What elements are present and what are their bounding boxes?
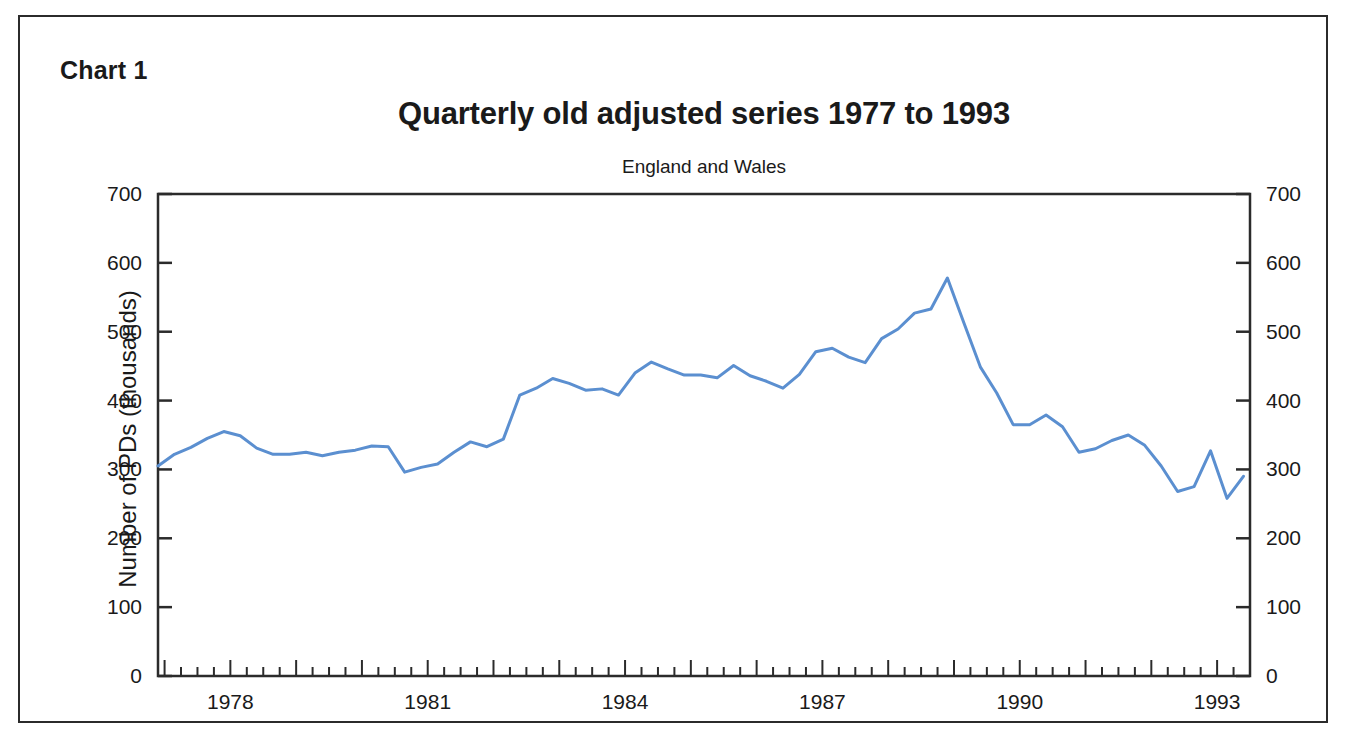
y-axis-tick-label: 400 (107, 389, 142, 412)
data-series-line (158, 278, 1243, 498)
x-axis-tick-label: 1978 (207, 690, 254, 713)
y-axis-tick-label: 300 (107, 457, 142, 480)
y-axis-tick-label-right: 600 (1266, 251, 1301, 274)
plot-area-frame (158, 194, 1250, 676)
y-axis-tick-label-right: 0 (1266, 664, 1278, 687)
y-axis-tick-label: 700 (107, 182, 142, 205)
y-axis-tick-label: 0 (130, 664, 142, 687)
y-axis-tick-label-right: 300 (1266, 457, 1301, 480)
chart-figure: Chart 1 Quarterly old adjusted series 19… (0, 0, 1349, 752)
y-axis-right-ticks: 7006005004003002001000 (1236, 182, 1301, 687)
y-axis-left-ticks: 7006005004003002001000 (107, 182, 172, 687)
y-axis-tick-label-right: 200 (1266, 526, 1301, 549)
x-axis-tick-label: 1984 (602, 690, 649, 713)
x-axis-tick-label: 1981 (404, 690, 451, 713)
x-axis-tick-label: 1993 (1194, 690, 1241, 713)
y-axis-tick-label: 100 (107, 595, 142, 618)
x-axis-ticks: 197819811984198719901993 (165, 660, 1250, 713)
y-axis-tick-label-right: 100 (1266, 595, 1301, 618)
x-axis-tick-label: 1987 (799, 690, 846, 713)
y-axis-tick-label: 600 (107, 251, 142, 274)
y-axis-tick-label: 200 (107, 526, 142, 549)
y-axis-tick-label: 500 (107, 320, 142, 343)
y-axis-tick-label-right: 500 (1266, 320, 1301, 343)
x-axis-tick-label: 1990 (996, 690, 1043, 713)
y-axis-tick-label-right: 400 (1266, 389, 1301, 412)
y-axis-tick-label-right: 700 (1266, 182, 1301, 205)
line-chart-plot: 7006005004003002001000 70060050040030020… (0, 0, 1349, 752)
